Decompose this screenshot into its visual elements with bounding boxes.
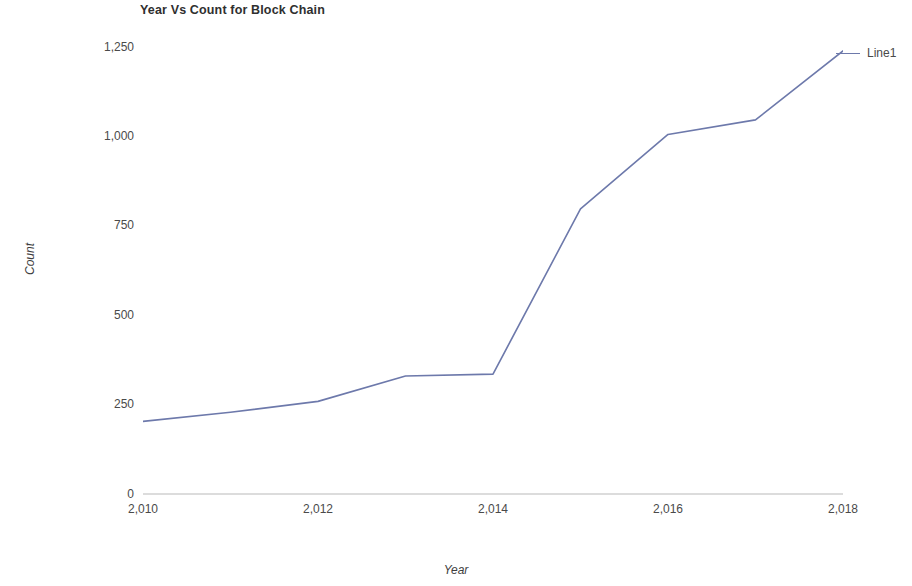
y-tick-label: 0 [74, 487, 134, 501]
y-tick-label: 1,000 [74, 129, 134, 143]
x-tick-label: 2,010 [103, 502, 183, 516]
plot-svg [143, 40, 843, 500]
legend-label: Line1 [867, 46, 896, 60]
x-tick-label: 2,018 [803, 502, 883, 516]
line-chart: Year Vs Count for Block Chain Count 1,25… [0, 0, 912, 586]
y-axis-title: Count [23, 219, 37, 299]
legend-line-swatch-icon [836, 53, 860, 54]
x-tick-label: 2,012 [278, 502, 358, 516]
y-axis-tick-labels: 1,250 1,000 750 500 250 0 [68, 0, 134, 586]
plot-area [143, 40, 843, 494]
chart-title: Year Vs Count for Block Chain [140, 3, 325, 17]
x-tick-label: 2,014 [453, 502, 533, 516]
data-line-line1 [143, 51, 843, 421]
y-tick-label: 250 [74, 397, 134, 411]
x-tick-label: 2,016 [628, 502, 708, 516]
y-tick-label: 500 [74, 308, 134, 322]
y-tick-label: 750 [74, 218, 134, 232]
chart-legend: Line1 [836, 46, 896, 60]
y-tick-label: 1,250 [74, 40, 134, 54]
x-axis-tick-labels: 2,010 2,012 2,014 2,016 2,018 [0, 502, 912, 524]
x-axis-title: Year [0, 563, 912, 577]
